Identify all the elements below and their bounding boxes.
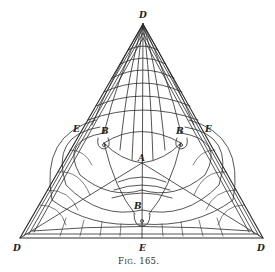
figure-caption: FIG. 165. [118, 256, 159, 266]
triangle-field-diagram [0, 0, 275, 272]
label-bottom-right-D: D [257, 244, 265, 253]
label-bottom-left-D: D [13, 244, 21, 253]
label-bottom-B: B [134, 202, 142, 211]
label-left-B: B [101, 127, 109, 136]
label-right-B: B [176, 127, 184, 136]
label-apex-D: D [139, 11, 147, 20]
label-right-E: E [205, 125, 212, 134]
label-bottom-E: E [139, 244, 146, 253]
vertical-axis [142, 24, 143, 238]
bottom-edge-lines [26, 227, 257, 235]
label-left-E: E [73, 125, 80, 134]
label-center-A: A [138, 154, 145, 163]
